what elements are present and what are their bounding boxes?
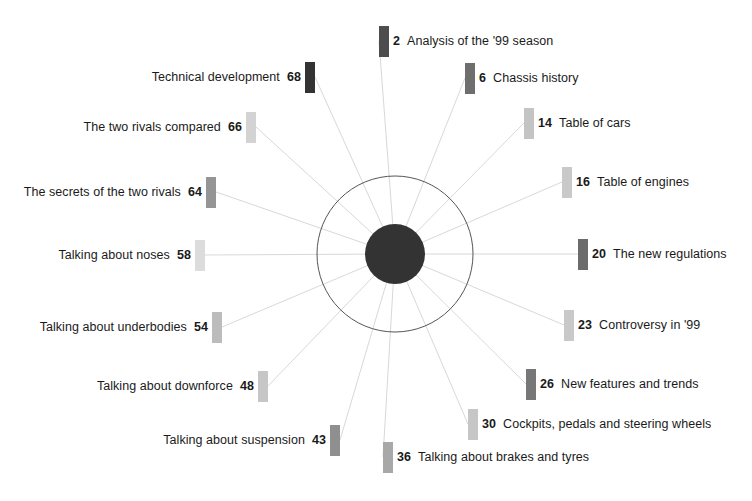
spoke-line [340,282,387,440]
chapter-page-number: 20 [592,248,606,261]
chapter-title: Talking about brakes and tyres [418,451,589,464]
chapter-entry[interactable]: 26New features and trends [526,369,698,400]
chapter-entry[interactable]: The secrets of the two rivals64 [0,177,216,208]
spoke-line [256,127,374,234]
chapter-color-swatch [212,312,222,343]
chapter-page-number: 16 [576,176,590,189]
chapter-page-number: 30 [482,418,496,431]
spoke-line [422,182,562,243]
chapter-page-number: 26 [540,378,554,391]
chapter-page-number: 2 [393,35,400,48]
chapter-page-number: 48 [240,380,254,393]
chapter-title: Talking about downforce [97,380,233,393]
chapter-entry[interactable]: 36Talking about brakes and tyres [383,442,589,473]
chapter-color-swatch [383,442,393,473]
chapter-entry[interactable]: 30Cockpits, pedals and steering wheels [468,409,711,440]
chapter-page-number: 23 [578,319,592,332]
chapter-color-swatch [195,240,205,271]
chapter-title: Table of engines [597,176,689,189]
chapter-title: Technical development [152,71,280,84]
chapter-entry[interactable]: 2Analysis of the '99 season [379,26,553,57]
chapter-page-number: 6 [479,72,486,85]
chapter-page-number: 14 [538,117,552,130]
chapter-entry[interactable]: Talking about underbodies54 [0,312,222,343]
chapter-title: The secrets of the two rivals [24,186,181,199]
chapter-page-number: 58 [177,249,191,262]
spoke-line [415,123,524,233]
chapter-color-swatch [578,239,588,270]
chapter-entry[interactable]: Talking about downforce48 [0,371,268,402]
chapter-color-swatch [206,177,216,208]
spoke-line [379,41,393,225]
spoke-line [406,281,468,424]
chapter-color-swatch [305,62,315,93]
chapter-color-swatch [258,371,268,402]
chapter-page-number: 68 [287,71,301,84]
chapter-entry[interactable]: 14Table of cars [524,108,631,139]
chapter-page-number: 36 [397,451,411,464]
chapter-title: Cockpits, pedals and steering wheels [503,418,711,431]
chapter-title: Talking about suspension [163,434,305,447]
chapter-title: Analysis of the '99 season [407,35,553,48]
chapter-entry[interactable]: 6Chassis history [465,63,579,94]
spoke-line [416,274,526,384]
chapter-title: Talking about noses [58,249,169,262]
chapter-page-number: 54 [194,321,208,334]
chapter-color-swatch [379,26,389,57]
chapter-color-swatch [468,409,478,440]
chapter-color-swatch [562,167,572,198]
chapter-color-swatch [465,63,475,94]
chapter-color-swatch [246,112,256,143]
chapter-title: New features and trends [561,378,698,391]
chapter-color-swatch [526,369,536,400]
spoke-line [315,77,383,228]
spoke-line [268,275,375,386]
chapter-entry[interactable]: Talking about noses58 [0,240,205,271]
chapter-entry[interactable]: 16Table of engines [562,167,689,198]
chapter-title: The two rivals compared [84,121,221,134]
spoke-line [383,283,393,457]
chapter-page-number: 43 [312,434,326,447]
radial-chapter-wheel-diagram: 2Analysis of the '99 season6Chassis hist… [0,0,752,501]
chapter-color-swatch [564,310,574,341]
chapter-title: Controversy in '99 [599,319,700,332]
chapter-title: The new regulations [613,248,727,261]
center-hub-circle [365,224,425,284]
spoke-line [222,265,368,327]
chapter-page-number: 64 [188,186,202,199]
spoke-line [205,254,366,255]
chapter-title: Talking about underbodies [40,321,187,334]
spoke-line [216,192,368,245]
chapter-entry[interactable]: 20The new regulations [578,239,727,270]
chapter-entry[interactable]: Technical development68 [0,62,315,93]
chapter-entry[interactable]: The two rivals compared66 [0,112,256,143]
chapter-color-swatch [330,425,340,456]
spoke-line [406,78,465,227]
chapter-title: Table of cars [559,117,631,130]
chapter-entry[interactable]: 23Controversy in '99 [564,310,700,341]
chapter-page-number: 66 [228,121,242,134]
chapter-entry[interactable]: Talking about suspension43 [0,425,340,456]
chapter-color-swatch [524,108,534,139]
chapter-title: Chassis history [493,72,579,85]
